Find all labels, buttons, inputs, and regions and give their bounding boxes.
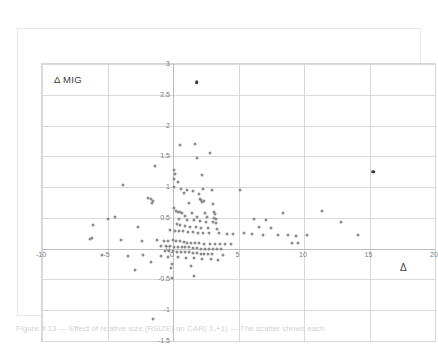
scatter-point xyxy=(229,242,232,245)
scatter-point xyxy=(208,152,211,155)
scatter-point xyxy=(208,232,211,235)
gridline-horizontal xyxy=(42,156,435,157)
scatter-point xyxy=(209,258,212,261)
scatter-point xyxy=(204,220,207,223)
scatter-point xyxy=(173,229,176,232)
scatter-point xyxy=(180,246,183,249)
scatter-point xyxy=(291,241,294,244)
scatter-point xyxy=(210,189,213,192)
y-tick-label: -0.5 xyxy=(158,275,170,282)
scatter-point xyxy=(250,232,253,235)
scatter-point xyxy=(184,215,187,218)
scatter-point xyxy=(187,251,190,254)
scatter-point xyxy=(173,168,176,171)
y-tick-label: 2 xyxy=(166,121,170,128)
scatter-point xyxy=(297,241,300,244)
gridline-vertical xyxy=(108,64,109,341)
scatter-point xyxy=(140,240,143,243)
y-tick-label: 1.5 xyxy=(160,152,170,159)
scatter-point xyxy=(170,263,173,266)
y-tick-label: 3 xyxy=(166,60,170,67)
scatter-point xyxy=(213,212,216,215)
scatter-point xyxy=(194,226,197,229)
scatter-point xyxy=(185,218,188,221)
scatter-point xyxy=(204,211,207,214)
scatter-point xyxy=(106,218,109,221)
x-tick-label: 0 xyxy=(170,251,174,258)
scatter-point xyxy=(206,215,209,218)
scatter-point xyxy=(179,187,182,190)
scatter-point xyxy=(172,245,175,248)
scatter-point xyxy=(122,184,125,187)
scatter-point xyxy=(207,252,210,255)
scatter-point xyxy=(156,239,159,242)
y-tick-label: 0 xyxy=(166,244,170,251)
y-tick-label: 0.5 xyxy=(160,213,170,220)
scatter-point xyxy=(194,242,197,245)
scatter-point xyxy=(195,156,198,159)
scatter-point xyxy=(192,256,195,259)
scatter-point xyxy=(192,190,195,193)
scatter-point xyxy=(179,250,182,253)
scatter-point xyxy=(177,256,180,259)
x-tick-label: 10 xyxy=(299,251,307,258)
chart-object[interactable]: Δ MIG Δ -10-50510152032.521.510.50-0.5-1… xyxy=(17,28,421,316)
scatter-point xyxy=(202,187,205,190)
gridline-vertical xyxy=(304,64,305,341)
x-tick-label: -5 xyxy=(103,251,109,258)
gridline-horizontal xyxy=(42,279,435,280)
scatter-point xyxy=(372,170,376,174)
scatter-point xyxy=(203,242,206,245)
scatter-point xyxy=(321,209,324,212)
scatter-point xyxy=(196,215,199,218)
scatter-point xyxy=(202,231,205,234)
gridline-vertical xyxy=(42,64,43,341)
scatter-point xyxy=(242,232,245,235)
gridline-horizontal xyxy=(42,64,435,65)
x-tick-label: -10 xyxy=(36,251,46,258)
gridline-vertical xyxy=(239,64,240,341)
scatter-point xyxy=(253,218,256,221)
scatter-point xyxy=(265,219,268,222)
scatter-point xyxy=(198,242,201,245)
scatter-point xyxy=(208,242,211,245)
scatter-point xyxy=(181,211,184,214)
scatter-point xyxy=(356,234,359,237)
scatter-point xyxy=(262,233,265,236)
scatter-plot-area[interactable] xyxy=(41,63,436,342)
gridline-vertical xyxy=(435,64,436,341)
scatter-point xyxy=(151,202,154,205)
scatter-point xyxy=(305,234,308,237)
scatter-point xyxy=(141,253,144,256)
scatter-point xyxy=(92,224,95,227)
y-axis-title: Δ MIG xyxy=(54,74,82,85)
scatter-point xyxy=(88,237,91,240)
scatter-point xyxy=(198,219,201,222)
scatter-point xyxy=(173,178,176,181)
scatter-point xyxy=(134,269,137,272)
y-tick-label: -1 xyxy=(164,306,170,313)
scatter-point xyxy=(232,232,235,235)
scatter-point xyxy=(178,224,181,227)
scatter-point xyxy=(199,226,202,229)
scatter-point xyxy=(258,226,261,229)
figure-caption: Figure 4.13 — Effect of relative size (R… xyxy=(16,324,421,334)
scatter-point xyxy=(195,251,198,254)
gridline-horizontal xyxy=(42,218,435,219)
scatter-point xyxy=(201,200,204,203)
x-tick-label: 20 xyxy=(430,251,438,258)
scatter-point xyxy=(225,232,228,235)
scatter-point xyxy=(184,246,187,249)
scatter-point xyxy=(188,246,191,249)
scatter-point xyxy=(197,193,200,196)
y-tick-label: 1 xyxy=(166,183,170,190)
scatter-point xyxy=(215,221,218,224)
scatter-point xyxy=(211,203,214,206)
scatter-point xyxy=(192,247,195,250)
y-axis-line xyxy=(173,64,174,341)
scatter-point xyxy=(169,229,172,232)
scatter-point xyxy=(183,251,186,254)
gridline-horizontal xyxy=(42,95,435,96)
scatter-point xyxy=(176,245,179,248)
